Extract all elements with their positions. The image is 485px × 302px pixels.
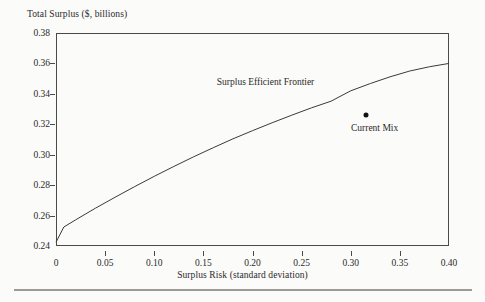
x-tick-mark — [105, 251, 106, 256]
y-tick-label: 0.30 — [33, 150, 50, 160]
y-tick-label: 0.36 — [33, 58, 50, 68]
y-tick-label: 0.24 — [33, 241, 50, 251]
plot-annotation-label: Current Mix — [351, 123, 398, 133]
y-tick-label: 0.38 — [33, 28, 50, 38]
x-tick-label: 0.05 — [97, 258, 114, 268]
y-tick-label: 0.32 — [33, 119, 50, 129]
x-tick-label: 0.40 — [441, 258, 458, 268]
x-tick-mark — [154, 251, 155, 256]
y-tick-mark — [50, 185, 55, 186]
series-layer — [56, 33, 449, 246]
x-tick-label: 0 — [54, 258, 59, 268]
y-tick-mark — [50, 124, 55, 125]
y-tick-mark — [50, 216, 55, 217]
footer-rule — [14, 289, 472, 291]
y-tick-label: 0.26 — [33, 211, 50, 221]
x-tick-mark — [203, 251, 204, 256]
x-tick-label: 0.35 — [392, 258, 409, 268]
y-tick-label: 0.34 — [33, 89, 50, 99]
chart-page: Total Surplus ($, billions) 0.240.260.28… — [0, 0, 485, 302]
x-tick-label: 0.25 — [293, 258, 310, 268]
y-tick-label: 0.28 — [33, 180, 50, 190]
frontier-curve — [56, 63, 449, 242]
y-axis-tick-labels: 0.240.260.280.300.320.340.360.38 — [6, 33, 50, 246]
current-mix-point — [364, 112, 369, 117]
y-axis-title: Total Surplus ($, billions) — [27, 9, 127, 19]
y-tick-mark — [50, 94, 55, 95]
x-axis-title: Surplus Risk (standard deviation) — [0, 270, 485, 280]
x-tick-label: 0.20 — [244, 258, 261, 268]
x-tick-mark — [253, 251, 254, 256]
x-tick-mark — [400, 251, 401, 256]
plot-annotation-label: Surplus Efficient Frontier — [217, 77, 314, 87]
plot-area: Surplus Efficient FrontierCurrent Mix — [56, 33, 449, 246]
x-tick-label: 0.30 — [342, 258, 359, 268]
x-tick-mark — [351, 251, 352, 256]
x-tick-label: 0.10 — [146, 258, 163, 268]
x-tick-label: 0.15 — [195, 258, 212, 268]
x-axis-tick-labels: 00.050.100.150.200.250.300.350.40 — [56, 251, 449, 265]
x-tick-mark — [302, 251, 303, 256]
y-tick-mark — [50, 155, 55, 156]
y-tick-mark — [50, 63, 55, 64]
